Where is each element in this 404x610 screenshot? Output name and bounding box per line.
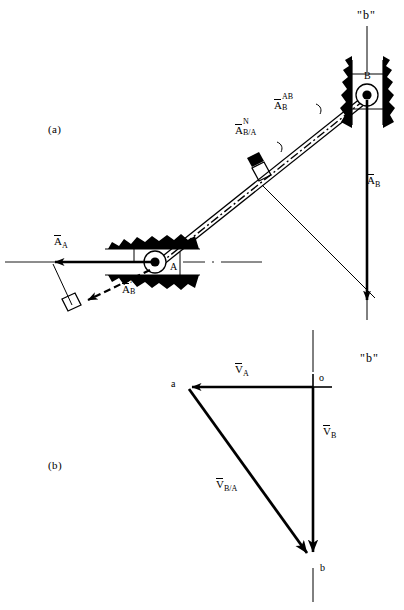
- vector-velocity-b-rel-a: [189, 389, 307, 553]
- label-velocity-b: VB: [323, 426, 336, 437]
- pole-point-o-label: o: [319, 373, 324, 383]
- label-velocity-b-rel-a: VB/A: [216, 479, 237, 490]
- connecting-link-ab: [154, 94, 370, 269]
- leader-accel-b-rel-a: [277, 142, 282, 152]
- link-centerline: [158, 97, 368, 265]
- leader-accel-b-ab: [316, 104, 321, 114]
- normal-component-mark: [247, 152, 264, 167]
- diagram-sheet: (a) "b" B A AA AB AABBAB ANB/AB/A AABBAB…: [0, 0, 404, 610]
- label-accel-b-rel-a-normal: ANB/AB/A: [235, 125, 256, 136]
- label-velocity-a: VA: [235, 364, 249, 375]
- joint-a-label: A: [170, 262, 177, 272]
- right-angle-marker-lower-left: [62, 293, 81, 311]
- link-edge-upper: [154, 94, 366, 263]
- joint-b-label: B: [364, 71, 371, 81]
- ground-hatch-right: [383, 56, 395, 128]
- panel-b-label: (b): [48, 460, 62, 471]
- label-accel-b-ab-lower: AABBAB: [122, 284, 141, 295]
- label-accel-b-ab: AABBAB: [274, 100, 293, 111]
- panel-b-group: [189, 330, 332, 602]
- label-accel-b: AB: [367, 175, 380, 186]
- pivot-b-inner: [362, 90, 371, 99]
- construction-line-right: [262, 185, 375, 298]
- link-edge-lower: [158, 100, 370, 269]
- ground-hatch-left: [340, 56, 352, 128]
- panel-a-label: (a): [48, 124, 61, 135]
- path-label-b-top: "b": [357, 9, 376, 21]
- mechanism-drawing: [0, 0, 404, 610]
- pole-point-b-label: b: [320, 563, 325, 573]
- path-label-b-lower: "b": [360, 352, 379, 364]
- label-accel-a: AA: [54, 236, 68, 247]
- panel-a-group: [5, 26, 395, 320]
- pole-point-a-label: a: [171, 379, 175, 389]
